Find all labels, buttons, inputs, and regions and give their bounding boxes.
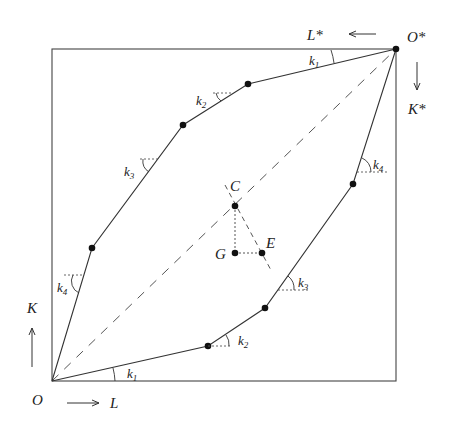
svg-text:k2: k2 (238, 333, 249, 350)
upper-point-3 (245, 81, 252, 88)
lower-point-2 (262, 305, 269, 312)
ce-dashed-line (225, 185, 272, 272)
svg-text:k4: k4 (57, 280, 68, 297)
capital-star-label: K* (407, 101, 426, 117)
capital-label: K (26, 300, 38, 316)
edgeworth-box-diagram: C G E k1 k2 k3 k4 k1 k2 k3 k4 O (0, 0, 458, 435)
svg-text:k3: k3 (298, 275, 309, 292)
svg-text:k4: k4 (373, 157, 384, 174)
label-c: C (230, 178, 241, 194)
svg-text:k1: k1 (309, 53, 319, 70)
svg-text:k1: k1 (127, 366, 137, 383)
svg-text:k2: k2 (196, 93, 207, 110)
origin-label: O (32, 392, 43, 408)
point-g (232, 250, 239, 257)
labor-label: L (109, 395, 118, 411)
upper-point-2 (180, 122, 187, 129)
origin-star-label: O* (407, 29, 426, 45)
upper-point-1 (89, 245, 96, 252)
origin-star-point (393, 46, 400, 53)
label-e: E (265, 235, 275, 251)
lower-angle-k4: k4 (357, 157, 387, 174)
upper-angle-k4: k4 (57, 275, 84, 297)
point-e (259, 250, 266, 257)
point-c (232, 203, 239, 210)
lower-point-3 (350, 181, 357, 188)
labor-star-label: L* (306, 27, 323, 43)
upper-angle-k3: k3 (124, 159, 158, 181)
upper-angle-k2: k2 (196, 93, 232, 110)
label-g: G (215, 246, 226, 262)
svg-text:k3: k3 (124, 164, 135, 181)
